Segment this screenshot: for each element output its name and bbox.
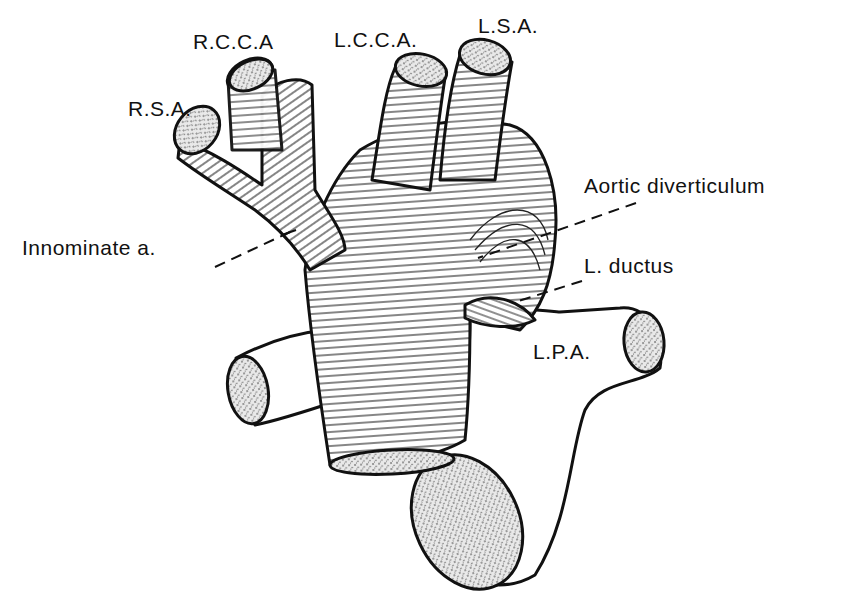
label-rsa: R.S.A. (128, 97, 192, 121)
label-lcca: L.C.C.A. (334, 28, 417, 52)
label-rcca: R.C.C.A (193, 30, 274, 54)
label-innominate: Innominate a. (22, 236, 156, 260)
right-common-carotid-artery (222, 51, 282, 150)
label-lsa: L.S.A. (478, 14, 538, 38)
aortic-arch-diagram (0, 0, 853, 609)
label-lpa: L.P.A. (533, 340, 591, 364)
innominate-leader (215, 232, 290, 267)
label-l-ductus: L. ductus (584, 254, 674, 278)
label-aortic-diverticulum: Aortic diverticulum (584, 174, 765, 198)
